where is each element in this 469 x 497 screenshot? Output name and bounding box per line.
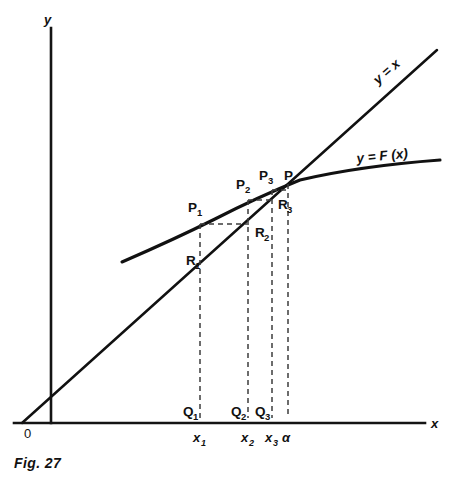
x-tick-x2-base: x bbox=[240, 430, 249, 445]
point-label-Q2-sub: 2 bbox=[241, 411, 246, 422]
point-label-P1-sub: 1 bbox=[197, 207, 203, 218]
point-label-Q2-base: Q bbox=[231, 404, 242, 419]
x-tick-x3-sub: 3 bbox=[273, 438, 278, 448]
point-label-P3-base: P bbox=[259, 168, 268, 183]
point-label-R1-sub: 1 bbox=[195, 260, 201, 271]
point-label-P: P bbox=[284, 168, 293, 183]
x-tick-x1-sub: 1 bbox=[201, 438, 206, 448]
point-label-P-base: P bbox=[284, 168, 293, 183]
point-label-Q3-base: Q bbox=[255, 404, 266, 419]
figure-container: y x 0 y = x y = F (x) P 1 P 2 P 3 P R 1 … bbox=[0, 0, 469, 497]
point-label-R2-sub: 2 bbox=[264, 232, 269, 243]
x-tick-label-x3: x 3 bbox=[264, 430, 278, 448]
point-label-Q3: Q 3 bbox=[255, 404, 270, 422]
x-tick-x2-sub: 2 bbox=[248, 438, 254, 448]
point-label-Q1-sub: 1 bbox=[193, 411, 199, 422]
x-axis-label: x bbox=[430, 416, 439, 431]
x-tick-label-alpha: α bbox=[282, 430, 291, 445]
point-label-R2: R 2 bbox=[255, 225, 269, 243]
point-label-P1: P 1 bbox=[188, 200, 203, 218]
point-label-P2: P 2 bbox=[236, 177, 250, 195]
point-label-P3: P 3 bbox=[259, 168, 273, 186]
point-label-R3: R 3 bbox=[278, 197, 292, 215]
identity-line-equation-label: y = x bbox=[369, 56, 403, 88]
point-label-P1-base: P bbox=[188, 200, 197, 215]
x-tick-label-x2: x 2 bbox=[240, 430, 254, 448]
x-tick-x1-base: x bbox=[192, 430, 201, 445]
point-label-P3-sub: 3 bbox=[268, 175, 273, 186]
y-axis-label: y bbox=[43, 12, 52, 27]
point-label-P2-sub: 2 bbox=[245, 184, 250, 195]
point-label-Q2: Q 2 bbox=[231, 404, 246, 422]
x-tick-x3-base: x bbox=[264, 430, 273, 445]
x-tick-label-x1: x 1 bbox=[192, 430, 206, 448]
x-tick-alpha-base: α bbox=[282, 430, 291, 445]
point-label-R3-sub: 3 bbox=[287, 204, 292, 215]
point-label-Q1-base: Q bbox=[183, 404, 194, 419]
point-label-Q3-sub: 3 bbox=[265, 411, 270, 422]
point-label-Q1: Q 1 bbox=[183, 404, 199, 422]
origin-label: 0 bbox=[24, 426, 31, 441]
figure-caption: Fig. 27 bbox=[14, 455, 61, 471]
identity-line-y-equals-x bbox=[22, 50, 437, 423]
fixed-point-iteration-diagram: y x 0 y = x y = F (x) P 1 P 2 P 3 P R 1 … bbox=[0, 0, 469, 497]
point-label-P2-base: P bbox=[236, 177, 245, 192]
